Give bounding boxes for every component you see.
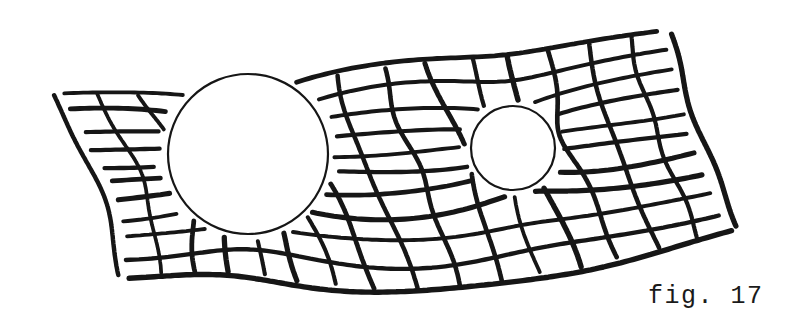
grid-line-warp-11-seg1 <box>515 197 540 272</box>
grid-line-weft-3 <box>91 149 160 151</box>
grid-line-weft-2 <box>86 131 159 132</box>
grid-line-warp-9 <box>386 69 460 286</box>
grid-line-warp-10 <box>425 63 464 144</box>
grid-line-warp-6 <box>308 217 336 283</box>
grid-line-weft-4 <box>105 167 154 168</box>
grid-line-weft-5-seg2 <box>564 134 686 149</box>
grid-line-weft-3-seg1 <box>337 129 460 136</box>
grid-line-weft-4-seg2 <box>562 114 684 131</box>
grid-line-weft-5-seg1 <box>339 167 467 172</box>
grid-line-weft-3-seg2 <box>558 90 678 114</box>
grid-line-warp-3 <box>224 237 228 271</box>
grid-line-warp-12 <box>507 55 518 100</box>
grid-line-weft-5 <box>112 178 160 181</box>
figure-page: fig. 17 <box>0 0 792 334</box>
grid-line-weft-4-seg1 <box>334 147 459 157</box>
large-mass-circle <box>168 74 328 234</box>
grid-line-weft-1 <box>70 108 165 112</box>
small-mass-circle <box>471 106 555 190</box>
grid-line-warp-4 <box>258 241 265 274</box>
grid-line-warp-10-seg1 <box>472 174 502 280</box>
grid-lines-group <box>54 31 736 292</box>
grid-line-warp-1 <box>97 94 161 273</box>
grid-line-weft-6 <box>118 193 169 199</box>
figure-caption: fig. 17 <box>648 284 764 309</box>
grid-line-weft-0 <box>64 92 183 95</box>
grid-line-warp-12-seg1 <box>544 188 581 267</box>
grid-line-weft-2-seg1 <box>332 108 478 117</box>
grid-line-weft-6-seg1 <box>327 180 473 195</box>
